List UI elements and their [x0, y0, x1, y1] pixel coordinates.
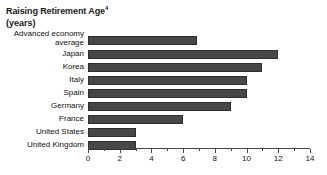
- x-tick-label-10: 10: [242, 154, 251, 163]
- category-label-advanced-economy-average: Advanced economy average: [0, 30, 84, 47]
- x-tick-major-0: [88, 149, 89, 153]
- bar-france: [88, 115, 183, 124]
- bar-germany: [88, 102, 231, 111]
- x-tick-minor-5: [167, 149, 168, 151]
- x-tick-major-2: [120, 149, 121, 153]
- category-label-korea: Korea: [63, 63, 84, 72]
- x-tick-major-8: [215, 149, 216, 153]
- x-tick-label-14: 14: [306, 154, 315, 163]
- bar-advanced-economy-average: [88, 36, 197, 45]
- category-label-united-kingdom: United Kingdom: [27, 141, 84, 150]
- x-tick-label-12: 12: [274, 154, 283, 163]
- category-axis-labels: Advanced economy average Japan Korea Ita…: [0, 30, 86, 148]
- bar-fill: [88, 63, 262, 72]
- chart-subtitle: (years): [6, 18, 108, 29]
- x-tick-label-0: 0: [86, 154, 90, 163]
- chart-figure: Raising Retirement Age4 (years) Advanced…: [0, 0, 327, 175]
- bar-united-states: [88, 128, 136, 137]
- bar-fill: [88, 102, 231, 111]
- bar-fill: [88, 115, 183, 124]
- category-label-germany: Germany: [51, 102, 84, 111]
- chart-title-footnote-marker: 4: [105, 5, 108, 11]
- x-tick-major-14: [310, 149, 311, 153]
- x-tick-minor-3: [136, 149, 137, 151]
- chart-title-text: Raising Retirement Age: [6, 6, 105, 16]
- x-tick-label-8: 8: [213, 154, 217, 163]
- bar-fill: [88, 76, 247, 85]
- bar-fill: [88, 50, 278, 59]
- x-tick-label-6: 6: [181, 154, 185, 163]
- bar-fill: [88, 89, 247, 98]
- bar-fill: [88, 36, 197, 45]
- bar-fill: [88, 128, 136, 137]
- category-label-france: France: [59, 115, 84, 124]
- category-label-spain: Spain: [64, 89, 84, 98]
- category-label-united-states: United States: [36, 128, 84, 137]
- bar-japan: [88, 50, 278, 59]
- x-tick-major-6: [183, 149, 184, 153]
- x-tick-minor-9: [231, 149, 232, 151]
- x-tick-major-4: [151, 149, 152, 153]
- x-tick-minor-11: [262, 149, 263, 151]
- x-tick-minor-1: [104, 149, 105, 151]
- bar-italy: [88, 76, 247, 85]
- page-title: Raising Retirement Age4: [6, 3, 108, 17]
- title-block: Raising Retirement Age4 (years): [6, 3, 108, 29]
- plot-area: Advanced economy average Japan Korea Ita…: [0, 30, 327, 175]
- bars-container: [88, 30, 310, 148]
- x-tick-minor-7: [199, 149, 200, 151]
- bar-spain: [88, 89, 247, 98]
- bar-korea: [88, 63, 262, 72]
- category-label-japan: Japan: [62, 50, 84, 59]
- category-label-italy: Italy: [69, 76, 84, 85]
- x-tick-label-2: 2: [117, 154, 121, 163]
- x-tick-minor-13: [294, 149, 295, 151]
- x-tick-label-4: 4: [149, 154, 153, 163]
- x-tick-major-10: [247, 149, 248, 153]
- x-tick-major-12: [278, 149, 279, 153]
